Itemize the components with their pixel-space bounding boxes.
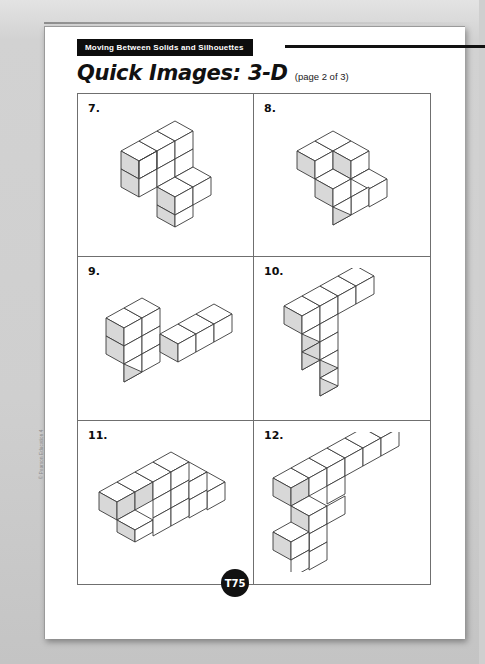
problem-cell: 7.	[78, 94, 254, 257]
banner-tail-rule	[285, 45, 485, 48]
cube-figure-11	[78, 421, 253, 584]
page-note: (page 2 of 3)	[295, 71, 349, 82]
cube-figure-12	[254, 421, 430, 584]
unit-banner: Moving Between Solids and Silhouettes	[77, 39, 253, 56]
copyright-note: © Pearson Education 4	[39, 389, 44, 479]
top-rule	[44, 22, 474, 24]
page-number-badge: T75	[221, 569, 249, 597]
problem-cell: 8.	[254, 94, 430, 257]
problem-grid: 7.	[77, 93, 431, 585]
cube-figure-7	[78, 94, 253, 256]
title-row: Quick Images: 3-D (page 2 of 3)	[77, 61, 349, 85]
page-title: Quick Images: 3-D	[77, 61, 288, 85]
worksheet-page: Moving Between Solids and Silhouettes Qu…	[44, 26, 465, 639]
unit-banner-label: Moving Between Solids and Silhouettes	[85, 43, 244, 52]
problem-cell: 11.	[78, 421, 254, 584]
cube-figure-10	[254, 257, 430, 419]
cube-figure-8	[254, 94, 430, 256]
cube-figure-9	[78, 257, 253, 419]
problem-cell: 12.	[254, 421, 430, 584]
problem-cell: 9.	[78, 257, 254, 420]
problem-cell: 10.	[254, 257, 430, 420]
